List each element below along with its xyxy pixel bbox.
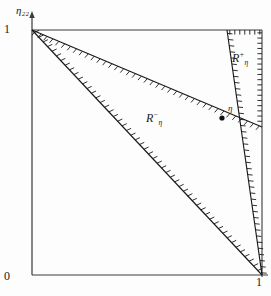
hatch-tick bbox=[183, 189, 188, 191]
hatch-tick bbox=[175, 180, 180, 182]
hatch-tick bbox=[243, 144, 248, 145]
hatch-tick bbox=[249, 187, 254, 188]
hatch-tick bbox=[197, 101, 200, 105]
region-label-r-eta-plus: R+η bbox=[232, 52, 248, 64]
hatch-tick bbox=[69, 68, 74, 70]
hatch-tick bbox=[248, 175, 253, 176]
hatch-tick bbox=[245, 254, 250, 256]
y-tick-label-one: 1 bbox=[4, 23, 10, 35]
hatch-tick bbox=[153, 156, 158, 158]
hatch-tick bbox=[235, 82, 240, 83]
lower-boundary-line bbox=[32, 30, 262, 275]
hatch-tick bbox=[109, 110, 114, 112]
hatch-tick bbox=[205, 212, 210, 214]
hatch-tick bbox=[179, 94, 182, 98]
hatch-tick bbox=[201, 208, 206, 210]
hatch-tick bbox=[262, 273, 267, 274]
hatch-tick bbox=[109, 64, 112, 68]
hatch-tick bbox=[67, 46, 70, 50]
hatch-tick bbox=[235, 89, 240, 90]
hatch-tick bbox=[144, 79, 147, 83]
hatch-tick bbox=[226, 113, 229, 117]
hatch-tick bbox=[253, 211, 258, 212]
point-label-eta: η bbox=[228, 104, 232, 113]
hatch-tick bbox=[52, 49, 57, 51]
hatch-tick bbox=[105, 105, 110, 107]
boundary-lines-group bbox=[32, 30, 262, 275]
hatch-tick bbox=[126, 71, 129, 75]
hatch-tick bbox=[44, 36, 47, 40]
figure-container: η₂₂ 1 0 1 R−η R+η η bbox=[0, 0, 271, 296]
hatch-tick bbox=[233, 70, 238, 71]
hatch-tick bbox=[223, 231, 228, 233]
hatch-tick bbox=[240, 250, 245, 252]
hatch-tick bbox=[114, 66, 117, 70]
hatch-tick bbox=[55, 41, 58, 45]
hatch-tick bbox=[150, 81, 153, 85]
hatch-tick bbox=[227, 236, 232, 238]
hatch-tick bbox=[162, 86, 165, 90]
hatch-marks-group bbox=[32, 30, 267, 273]
region-minus-subscript: η bbox=[158, 118, 162, 127]
hatch-tick bbox=[50, 39, 53, 43]
hatch-tick bbox=[242, 138, 247, 139]
hatch-tick bbox=[65, 63, 70, 65]
hatch-tick bbox=[245, 156, 250, 157]
hatch-tick bbox=[96, 96, 101, 98]
hatch-tick bbox=[131, 133, 136, 135]
hatch-tick bbox=[238, 107, 243, 108]
hatch-tick bbox=[249, 181, 254, 182]
hatch-tick bbox=[242, 132, 247, 133]
hatch-tick bbox=[140, 142, 145, 144]
hatch-tick bbox=[241, 125, 246, 126]
hatch-tick bbox=[161, 166, 166, 168]
hatch-tick bbox=[261, 267, 266, 268]
hatch-tick bbox=[191, 99, 194, 103]
hatch-tick bbox=[252, 205, 257, 206]
hatch-tick bbox=[214, 222, 219, 224]
region-diagram-svg bbox=[0, 0, 271, 296]
hatch-tick bbox=[170, 175, 175, 177]
hatch-tick bbox=[192, 198, 197, 200]
hatch-tick bbox=[232, 240, 237, 242]
hatch-tick bbox=[234, 76, 239, 77]
hatch-tick bbox=[167, 89, 170, 93]
hatch-tick bbox=[157, 161, 162, 163]
hatch-tick bbox=[209, 106, 212, 110]
hatch-tick bbox=[236, 95, 241, 96]
hatch-tick bbox=[91, 91, 96, 93]
hatch-tick bbox=[122, 124, 127, 126]
hatch-tick bbox=[258, 248, 263, 249]
hatch-tick bbox=[240, 119, 245, 120]
hatch-tick bbox=[256, 230, 261, 231]
hatch-tick bbox=[85, 54, 88, 58]
y-axis-label: η₂₂ bbox=[16, 5, 29, 16]
hatch-tick bbox=[61, 44, 64, 48]
hatch-tick bbox=[166, 170, 171, 172]
hatch-tick bbox=[250, 193, 255, 194]
hatch-tick bbox=[218, 226, 223, 228]
hatch-tick bbox=[73, 49, 76, 53]
hatch-tick bbox=[61, 58, 66, 60]
hatch-tick bbox=[256, 236, 261, 237]
hatch-tick bbox=[247, 168, 252, 169]
hatch-tick bbox=[253, 264, 258, 266]
hatch-tick bbox=[236, 245, 241, 247]
hatch-tick bbox=[239, 113, 244, 114]
hatch-tick bbox=[259, 254, 264, 255]
hatch-tick bbox=[179, 184, 184, 186]
hatch-tick bbox=[173, 91, 176, 95]
hatch-tick bbox=[250, 123, 253, 127]
hatch-tick bbox=[257, 242, 262, 243]
hatch-tick bbox=[196, 203, 201, 205]
hatch-tick bbox=[156, 84, 159, 88]
hatch-tick bbox=[103, 61, 106, 65]
hatch-tick bbox=[237, 101, 242, 102]
hatch-tick bbox=[229, 46, 234, 47]
region-label-r-eta-minus: R−η bbox=[146, 112, 162, 124]
hatch-tick bbox=[260, 260, 265, 261]
hatch-tick bbox=[144, 147, 149, 149]
hatch-tick bbox=[135, 138, 140, 140]
hatch-tick bbox=[249, 259, 254, 261]
hatch-tick bbox=[87, 86, 92, 88]
